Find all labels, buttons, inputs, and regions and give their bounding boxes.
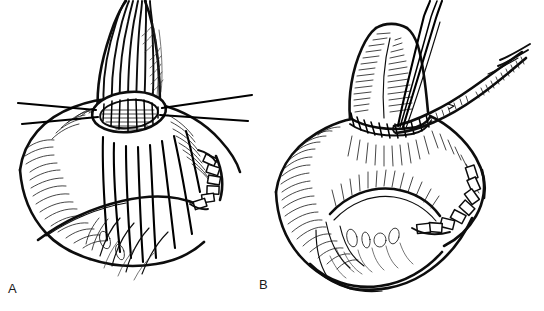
panel-label-b: B xyxy=(259,278,268,291)
panel-label-a: A xyxy=(8,282,17,295)
surgical-illustration xyxy=(0,0,544,311)
figure-container: A B xyxy=(0,0,544,311)
figure-background xyxy=(0,0,544,311)
